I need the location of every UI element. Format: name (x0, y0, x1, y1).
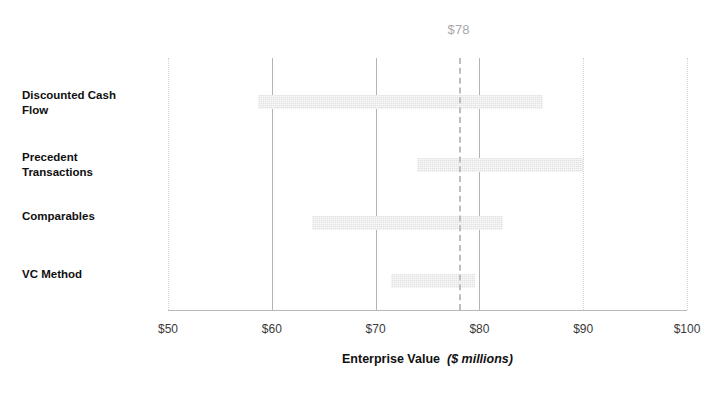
category-label-line-2: Transactions (22, 165, 162, 180)
range-bar-comparables (312, 216, 503, 230)
x-tick-label-90: $90 (573, 322, 593, 336)
category-label-discounted-cash-flow: Discounted Cash Flow (22, 88, 162, 118)
x-tick-label-70: $70 (366, 322, 386, 336)
plot-area: $78 (168, 58, 687, 310)
category-label-line-1: Discounted Cash (22, 88, 162, 103)
category-label-precedent-transactions: Precedent Transactions (22, 150, 162, 180)
category-label-line-1: Comparables (22, 209, 162, 224)
x-tick-label-60: $60 (262, 322, 282, 336)
x-axis-title-units: ($ millions) (447, 352, 513, 366)
target-value-label: $78 (447, 22, 469, 37)
x-axis-title-text: Enterprise Value (342, 352, 440, 366)
target-value-line (459, 58, 461, 310)
range-bar-precedent-transactions (417, 158, 583, 172)
range-bar-discounted-cash-flow (258, 95, 542, 109)
gridline-90 (583, 58, 584, 310)
category-label-line-2: Flow (22, 103, 162, 118)
x-tick-label-100: $100 (674, 322, 701, 336)
category-label-line-1: Precedent (22, 150, 162, 165)
gridline-100 (687, 58, 688, 310)
category-label-line-1: VC Method (22, 267, 162, 282)
category-label-comparables: Comparables (22, 209, 162, 224)
x-axis-line (168, 310, 687, 311)
x-tick-label-50: $50 (158, 322, 178, 336)
football-field-valuation-chart: Discounted Cash Flow Precedent Transacti… (0, 0, 719, 394)
category-label-vc-method: VC Method (22, 267, 162, 282)
gridline-50 (168, 58, 169, 310)
x-tick-label-80: $80 (469, 322, 489, 336)
x-axis-title: Enterprise Value ($ millions) (168, 352, 687, 366)
range-bar-vc-method (391, 274, 475, 288)
